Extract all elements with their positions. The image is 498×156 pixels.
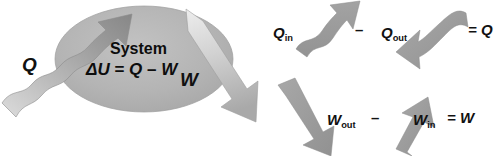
equals-sign: = xyxy=(110,60,129,79)
heat-equation-result: = Q xyxy=(468,22,493,37)
heat-label-q: Q xyxy=(22,55,37,74)
w-term: W xyxy=(161,60,177,79)
q-in-symbol: Q xyxy=(273,24,285,41)
thermodynamics-diagram xyxy=(0,0,498,156)
work-equation-result: = W xyxy=(447,110,474,125)
w-in-label: Win xyxy=(413,112,435,127)
first-law-equation: ΔU = Q – W xyxy=(86,61,177,78)
q-out-label: Qout xyxy=(381,25,407,40)
q-in-subscript: in xyxy=(285,33,293,43)
w-out-subscript: out xyxy=(341,120,355,130)
w-out-symbol: W xyxy=(327,111,341,128)
w-in-symbol: W xyxy=(413,111,427,128)
q-term: Q xyxy=(129,60,142,79)
q-out-symbol: Q xyxy=(381,24,393,41)
q-out-subscript: out xyxy=(393,33,407,43)
q-in-wavy-arrow xyxy=(296,1,360,57)
minus-sign: – xyxy=(142,60,161,79)
work-label-w: W xyxy=(180,70,198,89)
delta-u-term: ΔU xyxy=(86,60,110,79)
w-out-arrow xyxy=(278,78,334,156)
work-equation-minus: – xyxy=(371,110,379,125)
system-label: System xyxy=(110,41,167,57)
w-out-label: Wout xyxy=(327,112,356,127)
q-in-label: Qin xyxy=(273,25,293,40)
w-in-subscript: in xyxy=(427,120,435,130)
heat-equation-minus: – xyxy=(355,22,363,37)
